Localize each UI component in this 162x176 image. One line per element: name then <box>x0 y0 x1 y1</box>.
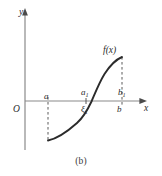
figure-container: y x O a f(x) a1 ξ1 b1 b (b) <box>0 0 162 176</box>
label-xi1: ξ1 <box>81 104 88 115</box>
label-a1-subscript: 1 <box>86 91 89 98</box>
label-b1: b1 <box>118 87 126 98</box>
label-xi1-subscript: 1 <box>85 108 88 115</box>
label-a1: a1 <box>81 87 89 98</box>
origin-label: O <box>13 104 20 114</box>
function-label: f(x) <box>103 45 116 56</box>
label-b1-subscript: 1 <box>123 91 126 98</box>
figure-caption: (b) <box>0 156 162 166</box>
x-axis-label: x <box>143 103 149 113</box>
y-axis-label: y <box>18 7 24 17</box>
function-curve <box>48 57 122 141</box>
label-b: b <box>117 104 122 114</box>
label-a: a <box>44 91 49 101</box>
function-graph: y x O a f(x) a1 ξ1 b1 b <box>0 0 162 176</box>
